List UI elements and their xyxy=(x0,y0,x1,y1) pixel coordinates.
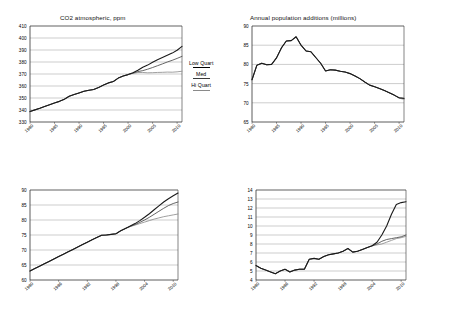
svg-text:2005: 2005 xyxy=(368,123,379,134)
svg-text:8: 8 xyxy=(250,242,253,247)
svg-text:2004: 2004 xyxy=(366,281,377,292)
svg-text:1998: 1998 xyxy=(337,281,348,292)
svg-text:330: 330 xyxy=(19,120,27,125)
svg-text:1998: 1998 xyxy=(110,281,121,292)
plot-unemployment: 4567891011121314198019861992199820042010 xyxy=(226,156,453,313)
svg-text:2010: 2010 xyxy=(393,123,404,134)
svg-text:90: 90 xyxy=(243,24,249,29)
legend-swatch-low xyxy=(193,67,210,68)
svg-text:65: 65 xyxy=(243,120,249,125)
svg-text:60: 60 xyxy=(21,278,27,283)
legend-label-med: Med xyxy=(189,71,213,77)
svg-text:4: 4 xyxy=(250,278,253,283)
svg-text:65: 65 xyxy=(21,263,27,268)
svg-text:80: 80 xyxy=(21,218,27,223)
svg-text:70: 70 xyxy=(243,101,249,106)
svg-text:400: 400 xyxy=(19,36,27,41)
svg-text:1992: 1992 xyxy=(308,281,319,292)
svg-text:1992: 1992 xyxy=(81,281,92,292)
legend-label-hi: Hi Quart xyxy=(189,82,213,88)
chart-panel-population: Annual population additions (millions) 6… xyxy=(226,0,453,156)
svg-text:360: 360 xyxy=(19,84,27,89)
svg-text:1985: 1985 xyxy=(48,123,59,134)
svg-text:410: 410 xyxy=(19,24,27,29)
svg-text:70: 70 xyxy=(21,248,27,253)
legend-entry-med: Med xyxy=(189,71,213,79)
legend-co2: Low Quart Med Hi Quart xyxy=(189,60,213,94)
legend-entry-hi: Hi Quart xyxy=(189,82,213,90)
svg-text:10: 10 xyxy=(247,224,253,229)
svg-text:5: 5 xyxy=(250,269,253,274)
svg-text:12: 12 xyxy=(247,206,253,211)
svg-text:2010: 2010 xyxy=(167,281,178,292)
chart-panel-co2: CO2 atmospheric, ppm 3303403503603703803… xyxy=(0,0,226,156)
chart-panel-unemployment: Percent unemployed 456789101112131419801… xyxy=(226,156,453,313)
svg-text:85: 85 xyxy=(243,43,249,48)
svg-text:80: 80 xyxy=(243,62,249,67)
svg-text:9: 9 xyxy=(250,233,253,238)
svg-text:90: 90 xyxy=(21,188,27,193)
svg-text:370: 370 xyxy=(19,72,27,77)
svg-text:1986: 1986 xyxy=(279,281,290,292)
svg-text:340: 340 xyxy=(19,108,27,113)
legend-label-low: Low Quart xyxy=(189,60,213,66)
legend-swatch-med xyxy=(193,78,210,79)
svg-text:1995: 1995 xyxy=(319,123,330,134)
svg-text:1995: 1995 xyxy=(97,123,108,134)
svg-text:380: 380 xyxy=(19,60,27,65)
svg-text:6: 6 xyxy=(250,260,253,265)
svg-text:14: 14 xyxy=(247,188,253,193)
svg-text:75: 75 xyxy=(243,82,249,87)
svg-text:2010: 2010 xyxy=(171,123,182,134)
legend-swatch-hi xyxy=(193,90,210,91)
svg-text:350: 350 xyxy=(19,96,27,101)
svg-text:75: 75 xyxy=(21,233,27,238)
svg-text:2000: 2000 xyxy=(122,123,133,134)
svg-text:2004: 2004 xyxy=(138,281,149,292)
svg-text:13: 13 xyxy=(247,197,253,202)
svg-text:390: 390 xyxy=(19,48,27,53)
svg-text:1990: 1990 xyxy=(295,123,306,134)
svg-text:85: 85 xyxy=(21,203,27,208)
svg-text:11: 11 xyxy=(248,215,253,220)
svg-text:1985: 1985 xyxy=(270,123,281,134)
figure-sheet: CO2 atmospheric, ppm 3303403503603703803… xyxy=(0,0,453,313)
svg-text:7: 7 xyxy=(250,251,253,256)
svg-text:2010: 2010 xyxy=(395,281,406,292)
svg-text:2000: 2000 xyxy=(344,123,355,134)
plot-population: 6570758085901980198519901995200020052010 xyxy=(226,0,453,156)
plot-literacy: 60657075808590198019861992199820042010 xyxy=(0,156,226,313)
svg-text:2005: 2005 xyxy=(146,123,157,134)
legend-entry-low: Low Quart xyxy=(189,60,213,68)
svg-text:1986: 1986 xyxy=(52,281,63,292)
svg-text:1990: 1990 xyxy=(73,123,84,134)
chart-panel-literacy: Literacy rate, adult total (% of people … xyxy=(0,156,226,313)
